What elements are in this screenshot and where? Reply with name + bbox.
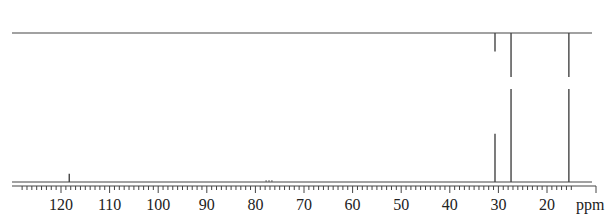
carbon-13-trace [12,89,592,182]
x-tick-label: 60 [345,196,361,214]
x-tick-label: 80 [247,196,263,214]
x-tick-label: 90 [199,196,215,214]
x-axis [12,186,596,193]
nmr-spectrum-plot [0,0,610,218]
x-tick-label: 110 [98,196,121,214]
x-tick-label: 20 [539,196,555,214]
x-tick-label: 30 [490,196,506,214]
x-tick-label: 50 [393,196,409,214]
x-axis-unit-label: ppm [576,196,604,214]
x-tick-label: 40 [442,196,458,214]
x-tick-label: 100 [146,196,170,214]
x-tick-label: 120 [49,196,73,214]
dept-trace [12,33,592,77]
x-tick-label: 70 [296,196,312,214]
